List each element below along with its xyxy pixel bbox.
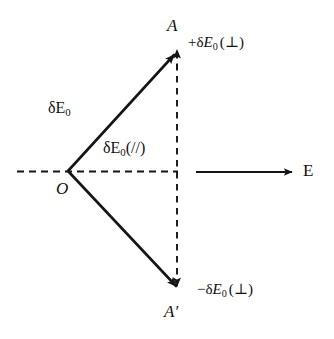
label-delta-e0: δE0: [48, 100, 71, 118]
e-upright-parallel: E: [111, 139, 121, 156]
e-italic-perp-minus: E: [213, 281, 222, 297]
subscript-zero-resultant: 0: [65, 106, 70, 118]
field-axis-label: E: [303, 162, 313, 179]
vector-diagram-figure: A +δE0(⊥) δE0 δE0(//) O E −δE0(⊥) A′: [0, 0, 334, 339]
e-upright-resultant: E: [56, 99, 66, 116]
origin-label: O: [56, 180, 68, 197]
perp-suffix-minus: (⊥): [229, 281, 253, 297]
label-minus-delta-e0-perp: −δE0(⊥): [197, 282, 253, 299]
delta-symbol-perp-plus: δ: [196, 34, 203, 50]
label-delta-e0-parallel: δE0(//): [103, 140, 145, 158]
point-label-a: A: [167, 17, 177, 34]
delta-symbol-parallel: δ: [103, 139, 111, 156]
parallel-suffix: (//): [126, 139, 146, 156]
subscript-zero-perp-minus: 0: [222, 288, 227, 299]
label-plus-delta-e0-perp: +δE0(⊥): [188, 35, 244, 52]
delta-symbol-perp-minus: δ: [205, 281, 212, 297]
vector-oaprime-arrow: [68, 171, 176, 286]
e-italic-perp-plus: E: [204, 34, 213, 50]
perp-suffix-plus: (⊥): [220, 34, 244, 50]
point-label-a-prime: A′: [164, 303, 178, 320]
diagram-canvas: [0, 0, 334, 339]
subscript-zero-perp-plus: 0: [213, 41, 218, 52]
delta-symbol-resultant: δ: [48, 99, 56, 116]
